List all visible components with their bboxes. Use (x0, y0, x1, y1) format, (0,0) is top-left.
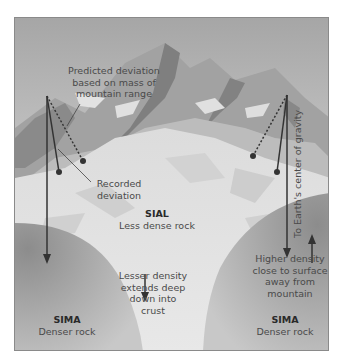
predicted-deviation-label: Predicted deviation based on mass of mou… (59, 65, 169, 100)
sial-title: SIAL (107, 208, 207, 220)
lesser-density-label: Lesser density extends deep down into cr… (110, 270, 196, 316)
sima-title: SIMA (37, 314, 97, 326)
label-line: crust (110, 305, 196, 317)
label-line: mountain range (59, 88, 169, 100)
sima-right-label: SIMA Denser rock (255, 314, 315, 337)
label-line: extends deep (110, 282, 196, 294)
recorded-deviation-label: Recorded deviation (89, 178, 149, 201)
label-line: down into (110, 293, 196, 305)
sima-left-label: SIMA Denser rock (37, 314, 97, 337)
label-line: Lesser density (110, 270, 196, 282)
label-line: mountain (251, 288, 329, 300)
sima-description: Denser rock (255, 326, 315, 338)
label-line: close to surface (251, 265, 329, 277)
label-line: Higher density (251, 253, 329, 265)
label-line: away from (251, 276, 329, 288)
gravity-label: To Earth's center of gravity (292, 110, 303, 238)
label-line: Recorded (89, 178, 149, 190)
sima-title: SIMA (255, 314, 315, 326)
label-line: Predicted deviation (59, 65, 169, 77)
label-line: based on mass of (59, 77, 169, 89)
sial-label: SIAL Less dense rock (107, 208, 207, 231)
diagram-frame: Predicted deviation based on mass of mou… (14, 17, 329, 351)
higher-density-label: Higher density close to surface away fro… (251, 253, 329, 299)
sial-description: Less dense rock (107, 220, 207, 232)
sima-description: Denser rock (37, 326, 97, 338)
label-line: deviation (89, 190, 149, 202)
